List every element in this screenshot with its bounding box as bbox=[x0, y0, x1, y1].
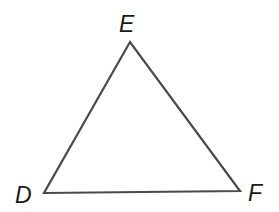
triangle-def bbox=[44, 42, 240, 193]
triangle-diagram: E D F bbox=[0, 0, 279, 212]
vertex-label-f: F bbox=[248, 180, 264, 206]
vertex-label-e: E bbox=[119, 11, 135, 37]
vertex-label-d: D bbox=[15, 182, 32, 208]
